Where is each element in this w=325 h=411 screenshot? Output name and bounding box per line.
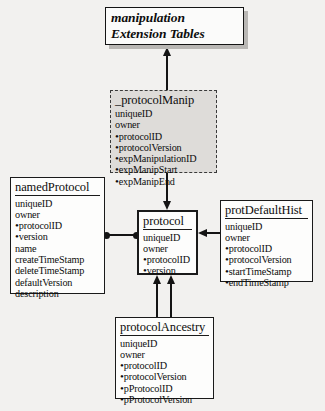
field-row: deleteTimeStamp (15, 265, 100, 276)
field-row: •protocolVersion (115, 142, 212, 153)
field-row: •endTimeStamp (225, 277, 308, 288)
field-row: •protocolID (15, 220, 100, 231)
field-label: name (15, 243, 36, 254)
entity-protocolancestry-fields: uniqueID owner •protocolID •protocolVers… (120, 338, 209, 406)
field-row: owner (143, 243, 192, 254)
field-label: startTimeStamp (229, 266, 292, 277)
entity-namedprotocol-fields: uniqueID owner •protocolID •version name… (15, 198, 100, 300)
diagram-title-line-1: manipulation (111, 10, 243, 26)
entity-protdefaulthist-fields: uniqueID owner •protocolID •protocolVers… (225, 221, 308, 289)
field-row: •expManipulationID (115, 153, 212, 164)
field-label: uniqueID (225, 221, 262, 232)
field-label: uniqueID (143, 232, 180, 243)
field-label: protocolVersion (229, 254, 292, 265)
field-row: •protocolID (120, 360, 209, 371)
field-label: pProtocolVersion (124, 394, 192, 405)
field-row: createTimeStamp (15, 254, 100, 265)
field-row: •protocolVersion (225, 254, 308, 265)
field-label: version (147, 265, 176, 276)
field-row: uniqueID (120, 338, 209, 349)
field-row: •expManipStart (115, 164, 212, 175)
field-row: owner (115, 119, 212, 130)
entity-namedprotocol-title: namedProtocol (15, 180, 100, 196)
field-label: expManipStart (119, 164, 178, 175)
field-row: •protocolID (115, 131, 212, 142)
field-row: •version (15, 231, 100, 242)
field-label: pProtocolID (124, 383, 173, 394)
entity-protocolmanip[interactable]: _protocolManip uniqueID owner •protocolI… (110, 90, 217, 173)
arrowhead-left-to-protocol (198, 229, 207, 237)
field-row: uniqueID (115, 108, 212, 119)
field-row: defaultVersion (15, 277, 100, 288)
field-row: •protocolID (225, 243, 308, 254)
entity-protocolmanip-fields: uniqueID owner •protocolID •protocolVers… (115, 108, 212, 187)
field-row: owner (15, 209, 100, 220)
diagram-title-line-2: Extension Tables (111, 26, 243, 42)
field-label: protocolID (147, 254, 190, 265)
field-row: uniqueID (143, 232, 192, 243)
field-label: protocolID (229, 243, 272, 254)
field-label: defaultVersion (15, 277, 72, 288)
field-label: protocolID (119, 131, 162, 142)
field-label: uniqueID (115, 108, 152, 119)
field-row: uniqueID (15, 198, 100, 209)
field-row: name (15, 243, 100, 254)
field-row: •startTimeStamp (225, 266, 308, 277)
entity-protocolancestry-title: protocolAncestry (120, 320, 209, 336)
field-row: •pProtocolVersion (120, 394, 209, 405)
field-row: owner (225, 232, 308, 243)
field-row: •pProtocolID (120, 383, 209, 394)
field-label: version (19, 231, 48, 242)
field-label: protocolVersion (119, 142, 182, 153)
field-row: description (15, 288, 100, 299)
field-label: protocolVersion (124, 371, 187, 382)
field-label: protocolID (19, 220, 62, 231)
er-diagram-canvas: manipulation Extension Tables _protocolM… (0, 0, 325, 411)
entity-protocolancestry[interactable]: protocolAncestry uniqueID owner •protoco… (115, 317, 214, 399)
field-row: •version (143, 265, 192, 276)
diagram-title-box: manipulation Extension Tables (105, 7, 244, 45)
arrowhead-down-to-protocol (163, 201, 171, 210)
field-label: expManipulationID (119, 153, 197, 164)
entity-protdefaulthist[interactable]: protDefaultHist uniqueID owner •protocol… (220, 200, 313, 282)
field-label: endTimeStamp (229, 277, 289, 288)
field-row: •protocolID (143, 254, 192, 265)
connector-protocolancestry-to-protocol-b (170, 283, 172, 317)
field-row: •protocolVersion (120, 371, 209, 382)
field-label: protocolID (124, 360, 167, 371)
entity-protdefaulthist-title: protDefaultHist (225, 203, 308, 219)
field-row: owner (120, 349, 209, 360)
connector-protocolancestry-to-protocol-a (156, 283, 158, 317)
field-label: deleteTimeStamp (15, 265, 84, 276)
connector-protocolmanip-to-title (166, 55, 168, 91)
entity-protocol-title: protocol (143, 214, 192, 230)
field-row: •expManipEnd (115, 176, 212, 187)
field-label: owner (115, 119, 140, 130)
field-label: uniqueID (15, 198, 52, 209)
field-label: uniqueID (120, 338, 157, 349)
field-row: uniqueID (225, 221, 308, 232)
field-label: createTimeStamp (15, 254, 84, 265)
entity-protocol[interactable]: protocol uniqueID owner •protocolID •ver… (137, 210, 198, 275)
entity-protocol-fields: uniqueID owner •protocolID •version (143, 232, 192, 277)
arrowhead-up-to-title (163, 47, 171, 56)
field-label: description (15, 288, 59, 299)
entity-protocolmanip-title: _protocolManip (115, 93, 212, 108)
field-label: expManipEnd (119, 176, 175, 187)
entity-namedprotocol[interactable]: namedProtocol uniqueID owner •protocolID… (10, 177, 105, 294)
